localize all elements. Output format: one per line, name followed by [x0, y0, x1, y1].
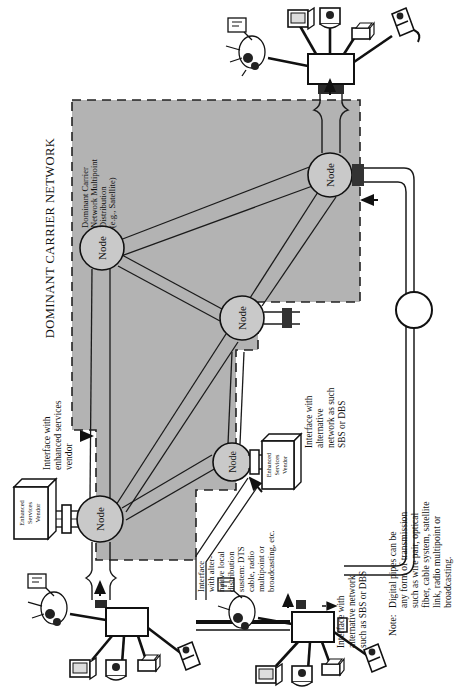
iface-alt-local-label: Interface with alter- native local distr…	[196, 530, 276, 592]
monitor-icon	[70, 658, 96, 679]
iface-enhanced-label: Interface with enhanced services vendor	[41, 400, 74, 470]
satellite-dish-icon	[396, 292, 432, 328]
telephone-icon	[392, 8, 419, 42]
iface-alt-net-right-line-1: Interface with	[304, 395, 314, 448]
node-bottom-label: Node	[94, 507, 106, 531]
iface-alt-local-line-6: cable, radio	[246, 550, 256, 592]
vendor-label-line2: Services	[26, 502, 33, 524]
iface-alt-network-right-label: Interface with alternative network as su…	[304, 387, 347, 448]
multipoint-line-4: (e.g., Satellite)	[107, 177, 117, 228]
node-lower-label: Node	[227, 451, 238, 473]
iface-enhanced-line-2: enhanced services	[52, 400, 63, 470]
printer-icon	[138, 655, 160, 671]
telephone-icon	[178, 642, 200, 670]
pipe-connector-icon	[296, 600, 306, 609]
iface-alt-net-right-line-3: network as such	[326, 387, 336, 448]
pipe-connector-icon	[352, 164, 364, 186]
iface-alt-local-line-3: native local	[216, 551, 226, 592]
monitor-icon	[288, 8, 314, 29]
computer-icon	[292, 666, 312, 686]
person-at-desk-icon	[28, 574, 67, 626]
node-left-label: Node	[96, 236, 108, 260]
terminal-hub-icon[interactable]	[106, 608, 148, 636]
node-mid-label: Node	[236, 306, 248, 330]
note-block: Note: Digital pipes can be any form of t…	[387, 502, 453, 636]
pipe-connector-icon	[282, 308, 292, 328]
terminal-hub-icon[interactable]	[308, 54, 354, 84]
page-title: DOMINANT CARRIER NETWORK	[43, 138, 57, 338]
note-line-2: any form of transmission	[398, 512, 409, 608]
cluster-top	[226, 8, 419, 84]
vendor-box-left: Enhanced Services Vendor	[14, 479, 56, 539]
terminal-hub-icon[interactable]	[292, 612, 334, 642]
node-bottom[interactable]: Node	[77, 496, 123, 542]
node-lower[interactable]: Node	[213, 443, 251, 481]
pipe-connector-icon	[250, 450, 259, 474]
note-line-5: link, radio multipoint or	[431, 515, 442, 608]
note-line-6: broadcasting.	[442, 557, 453, 608]
iface-alt-net-right-line-4: SBS or DBS	[337, 401, 347, 448]
iface-alt-local-line-2: with alter-	[206, 556, 216, 592]
printer-icon	[352, 23, 374, 39]
node-top[interactable]: Node	[308, 153, 352, 197]
note-line-1: Digital pipes can be	[387, 532, 398, 608]
iface-alt-local-line-5: sustem: DTS	[236, 546, 246, 592]
iface-alt-net-bottom-line-2: alternative network	[347, 575, 357, 648]
vendor-right-label-line1: Enhanced	[265, 452, 272, 477]
iface-alt-local-line-4: distribution	[226, 551, 236, 592]
iface-alt-net-bottom-line-1: Interface with	[336, 595, 346, 648]
figure-canvas: Node Node Node Node Node	[0, 0, 464, 697]
iface-alt-local-line-8: broadcasting, etc.	[266, 530, 276, 592]
vendor-box-right: Enhanced Services Vendor	[262, 434, 301, 489]
vendor-right-label-line2: Services	[273, 454, 280, 476]
node-mid[interactable]: Node	[220, 296, 264, 340]
computer-icon	[106, 660, 126, 680]
vendor-label-line1: Enhanced	[18, 499, 25, 525]
network-diagram: Node Node Node Node Node	[0, 0, 464, 697]
iface-alt-net-bottom-line-3: such as SBS or DBS	[358, 571, 368, 648]
iface-alt-local-line-7: multipoint or	[256, 546, 266, 592]
iface-alt-local-line-1: Interface	[196, 561, 206, 592]
pipe-connector-icon	[95, 600, 107, 608]
note-prefix: Note:	[387, 615, 398, 636]
node-left[interactable]: Node	[80, 226, 124, 270]
iface-enhanced-line-1: Interface with	[41, 416, 52, 470]
iface-alt-network-bottom-label: Interface with alternative network such …	[336, 571, 368, 648]
vendor-right-label-line3: Vendor	[281, 456, 288, 474]
pipe-connector-icon	[62, 505, 71, 533]
monitor-icon	[256, 664, 282, 685]
computer-icon	[320, 8, 340, 28]
iface-enhanced-line-3: vendor	[63, 443, 74, 470]
node-top-label: Node	[324, 163, 336, 187]
person-at-desk-icon	[226, 18, 265, 76]
note-line-4: fiber, cable system, satellite	[420, 502, 431, 608]
vendor-label-line3: Vendor	[34, 503, 41, 523]
cluster-bottom-left	[28, 574, 200, 680]
printer-icon	[322, 659, 344, 675]
iface-alt-net-right-line-2: alternative	[315, 408, 325, 448]
note-line-3: such as wire pair, optical	[409, 512, 420, 608]
